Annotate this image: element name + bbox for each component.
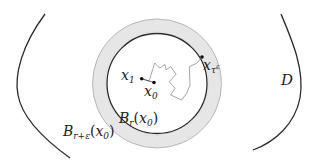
label-x1: x1 [121,68,135,85]
label-outer-ball: Br+ε(x0) [63,124,115,141]
point-x1-dot [140,77,144,81]
label-domain: D [281,73,293,88]
label-exit-point: xτε [203,58,220,75]
diagram-canvas [0,0,319,163]
label-inner-ball: Br(x0) [119,111,158,128]
label-x0: x0 [144,84,158,101]
domain-boundary-right [253,14,301,150]
